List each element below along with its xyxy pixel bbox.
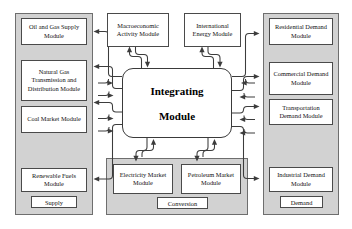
macroeconomic-activity-module[interactable]: Macroeconomic Activity Module bbox=[107, 13, 169, 47]
integrating-module-line-2: Module bbox=[159, 110, 195, 122]
petroleum-market-module[interactable]: Petroleum Market Module bbox=[181, 164, 241, 194]
coal-market-module[interactable]: Coal Market Module bbox=[21, 106, 87, 133]
supply-group-caption: Supply bbox=[31, 196, 77, 208]
industrial-demand-module[interactable]: Industrial Demand Module bbox=[269, 167, 333, 192]
oil-and-gas-supply-module[interactable]: Oil and Gas Supply Module bbox=[21, 18, 87, 45]
integrating-module[interactable]: Integrating Module bbox=[122, 68, 232, 138]
demand-group-caption: Demand bbox=[280, 196, 323, 208]
natural-gas-transmission-and-distribution-module[interactable]: Natural Gas Transmission and Distributio… bbox=[21, 60, 87, 101]
electricity-market-module[interactable]: Electricity Market Module bbox=[113, 164, 173, 194]
integrating-module-line-1: Integrating bbox=[150, 85, 203, 97]
renewable-fuels-module[interactable]: Renewable Fuels Module bbox=[21, 168, 87, 192]
diagram-canvas: Integrating Module Macroeconomic Activit… bbox=[0, 0, 352, 229]
conversion-group-caption: Conversion bbox=[157, 197, 208, 209]
transportation-demand-module[interactable]: Transportation Demand Module bbox=[269, 99, 333, 125]
international-energy-module[interactable]: International Energy Module bbox=[184, 13, 241, 47]
commercial-demand-module[interactable]: Commercial Demand Module bbox=[269, 62, 333, 95]
residential-demand-module[interactable]: Residential Demand Module bbox=[269, 18, 333, 45]
